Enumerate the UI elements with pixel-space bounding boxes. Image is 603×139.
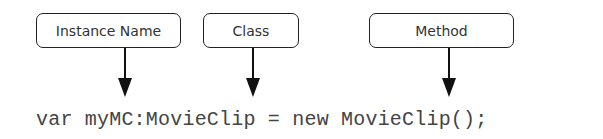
code-line: var myMC:MovieClip = new MovieClip(); [36,108,487,131]
arrow-down-icon [246,48,260,97]
arrow-down-icon [118,48,132,97]
arrow-down-icon [442,48,456,97]
